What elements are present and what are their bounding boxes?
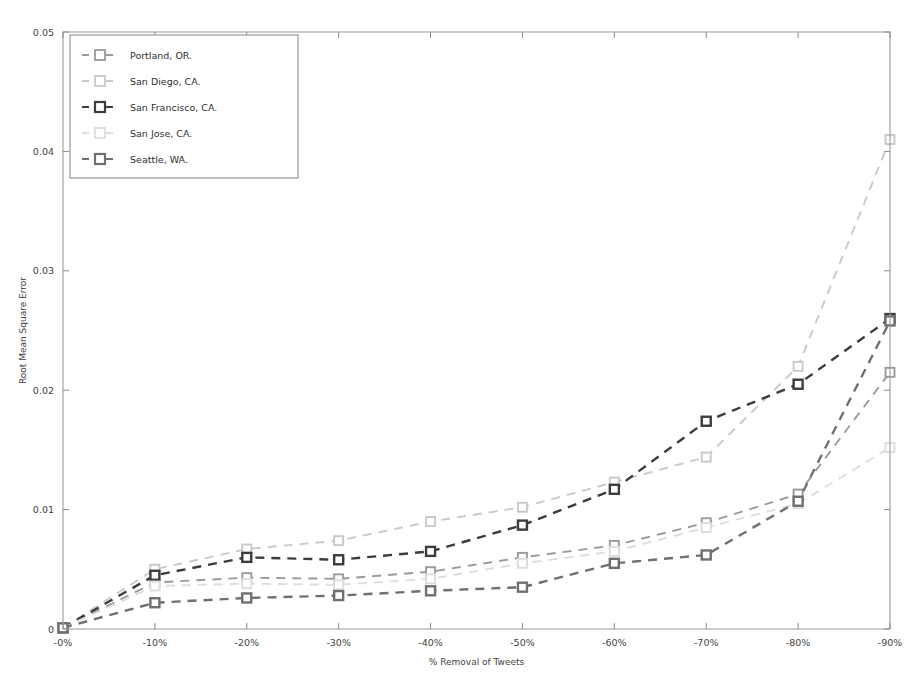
legend-label: Seattle, WA. (130, 154, 188, 165)
x-tick-label: -40% (418, 637, 443, 648)
y-axis-label: Root Mean Square Error (18, 277, 28, 384)
x-tick-label: -0% (54, 637, 73, 648)
data-point (518, 503, 527, 512)
data-point (610, 547, 619, 556)
data-point (794, 380, 803, 389)
x-axis-label: % Removal of Tweets (429, 657, 525, 667)
y-tick-label: 0.03 (33, 265, 54, 276)
legend-item-2[interactable]: San Francisco, CA. (82, 102, 217, 113)
x-tick-label: -90% (878, 637, 903, 648)
data-point (518, 559, 527, 568)
rmse-line-chart: 00.010.020.030.040.05-0%-10%-20%-30%-40%… (0, 0, 923, 674)
legend-label: San Francisco, CA. (130, 102, 217, 113)
data-point (702, 453, 711, 462)
legend-item-0[interactable]: Portland, OR. (82, 50, 192, 61)
data-point (702, 523, 711, 532)
data-point (242, 553, 251, 562)
legend-item-1[interactable]: San Diego, CA. (82, 76, 201, 87)
data-point (334, 555, 343, 564)
data-point (702, 550, 711, 559)
y-tick-label: 0.02 (33, 385, 54, 396)
series-line (63, 321, 890, 628)
data-point (794, 362, 803, 371)
legend-label: San Jose, CA. (130, 128, 192, 139)
series-layer (59, 135, 895, 632)
chart-legend: Portland, OR.San Diego, CA.San Francisco… (70, 35, 298, 178)
legend-item-4[interactable]: Seattle, WA. (82, 154, 188, 165)
y-tick-label: 0 (48, 624, 54, 635)
legend-item-3[interactable]: San Jose, CA. (82, 128, 192, 139)
data-point (150, 582, 159, 591)
data-point (426, 517, 435, 526)
chart-figure: 00.010.020.030.040.05-0%-10%-20%-30%-40%… (0, 0, 923, 674)
data-point (334, 580, 343, 589)
data-point (242, 593, 251, 602)
legend-marker (95, 50, 105, 60)
data-point (334, 591, 343, 600)
x-tick-label: -10% (143, 637, 168, 648)
y-tick-label: 0.04 (33, 146, 54, 157)
data-point (518, 521, 527, 530)
legend-label: Portland, OR. (130, 50, 192, 61)
legend-marker (95, 76, 105, 86)
data-point (150, 598, 159, 607)
x-tick-label: -30% (326, 637, 351, 648)
series-3 (59, 443, 895, 632)
series-line (63, 139, 890, 627)
data-point (426, 586, 435, 595)
legend-marker (95, 102, 105, 112)
data-point (426, 574, 435, 583)
data-point (242, 579, 251, 588)
series-0 (59, 368, 895, 633)
y-tick-label: 0.05 (33, 27, 54, 38)
data-point (426, 547, 435, 556)
x-tick-label: -20% (235, 637, 260, 648)
data-point (610, 485, 619, 494)
x-tick-label: -70% (694, 637, 719, 648)
legend-marker (95, 154, 105, 164)
data-point (518, 583, 527, 592)
legend-marker (95, 128, 105, 138)
y-tick-label: 0.01 (33, 504, 54, 515)
series-line (63, 448, 890, 628)
data-point (334, 536, 343, 545)
x-tick-label: -50% (510, 637, 535, 648)
legend-label: San Diego, CA. (130, 76, 201, 87)
data-point (794, 497, 803, 506)
data-point (702, 417, 711, 426)
data-point (150, 571, 159, 580)
series-1 (59, 135, 895, 632)
x-tick-label: -60% (602, 637, 627, 648)
data-point (610, 559, 619, 568)
x-tick-label: -80% (786, 637, 811, 648)
